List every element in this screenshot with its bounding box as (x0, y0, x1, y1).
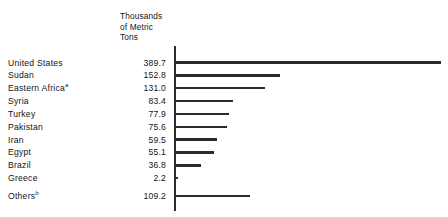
chart-rows: United States389.7Sudan152.8Eastern Afri… (0, 57, 448, 203)
value-label: 36.8 (110, 160, 166, 171)
chart-row: Turkey77.9 (0, 108, 448, 121)
units-header-line-2: of Metric (120, 22, 190, 33)
value-bar (176, 177, 178, 179)
category-label: Syria (8, 96, 29, 107)
category-label: Eastern Africaa (8, 83, 68, 94)
value-bar (176, 164, 201, 166)
category-label-text: Egypt (8, 147, 31, 157)
value-label: 75.6 (110, 122, 166, 133)
category-label-text: Iran (8, 135, 24, 145)
value-bar (176, 113, 229, 115)
category-label-text: Sudan (8, 70, 34, 80)
category-label: Othersb (8, 191, 39, 202)
category-label-text: Turkey (8, 109, 35, 119)
category-label-text: Brazil (8, 160, 31, 170)
footnote-marker: b (35, 190, 38, 196)
chart-row: Pakistan75.6 (0, 121, 448, 134)
category-label: Egypt (8, 147, 31, 158)
value-label: 152.8 (110, 70, 166, 81)
value-bar (176, 87, 265, 89)
chart-row: Greece2.2 (0, 173, 448, 186)
horizontal-bar-chart: Thousands of Metric Tons United States38… (0, 0, 448, 217)
value-bar (176, 126, 227, 128)
value-bar (176, 100, 233, 102)
chart-row: Iran59.5 (0, 134, 448, 147)
chart-row: United States389.7 (0, 57, 448, 70)
category-label: Sudan (8, 70, 34, 81)
category-label-text: Syria (8, 96, 29, 106)
value-label: 55.1 (110, 147, 166, 158)
category-label: Brazil (8, 160, 31, 171)
chart-row: Brazil36.8 (0, 160, 448, 173)
chart-row: Sudan152.8 (0, 70, 448, 83)
value-label: 131.0 (110, 83, 166, 94)
chart-row: Eastern Africaa131.0 (0, 83, 448, 96)
category-label: Pakistan (8, 122, 43, 133)
category-label-text: Eastern Africa (8, 83, 65, 93)
units-column-header: Thousands of Metric Tons (120, 11, 190, 43)
value-label: 83.4 (110, 96, 166, 107)
footnote-marker: a (65, 82, 68, 88)
category-label: United States (8, 58, 63, 69)
category-label-text: Pakistan (8, 122, 43, 132)
units-header-line-3: Tons (120, 32, 190, 43)
value-bar (176, 74, 280, 76)
value-bar (176, 61, 441, 63)
value-label: 109.2 (110, 191, 166, 202)
value-label: 2.2 (110, 173, 166, 184)
units-header-line-1: Thousands (120, 11, 190, 22)
category-label: Turkey (8, 109, 35, 120)
value-bar (176, 138, 217, 140)
value-label: 389.7 (110, 58, 166, 69)
chart-row: Syria83.4 (0, 96, 448, 109)
chart-row: Othersb109.2 (0, 191, 448, 204)
category-label-text: United States (8, 58, 63, 68)
category-label: Iran (8, 135, 24, 146)
category-label-text: Others (8, 191, 35, 201)
category-label: Greece (8, 173, 38, 184)
value-bar (176, 151, 214, 153)
value-label: 59.5 (110, 135, 166, 146)
chart-row: Egypt55.1 (0, 147, 448, 160)
value-label: 77.9 (110, 109, 166, 120)
value-bar (176, 195, 250, 197)
category-label-text: Greece (8, 173, 38, 183)
